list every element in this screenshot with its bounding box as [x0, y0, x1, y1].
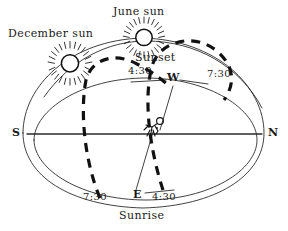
cardinal-west-label: W: [167, 72, 180, 83]
sunset-time-june: 7:30: [207, 69, 231, 79]
sunrise-label: Sunrise: [119, 210, 164, 221]
december-sun-label: December sun: [8, 28, 93, 39]
sunset-time-december: 4:30: [128, 66, 152, 76]
june-sun-label: June sun: [113, 6, 165, 17]
sunrise-time-june: 4:30: [152, 192, 176, 202]
cardinal-east-label: E: [133, 189, 142, 200]
celestial-sphere-diagram: June sun December sun Sunset Sunrise 4:3…: [0, 0, 288, 231]
sunrise-time-december: 7:30: [83, 192, 107, 202]
cardinal-south-label: S: [12, 127, 20, 138]
horizon-plane-ellipse: [34, 78, 257, 200]
cardinal-north-label: N: [268, 127, 278, 138]
december-sun-icon: [48, 42, 92, 86]
sunset-label: Sunset: [135, 52, 176, 63]
